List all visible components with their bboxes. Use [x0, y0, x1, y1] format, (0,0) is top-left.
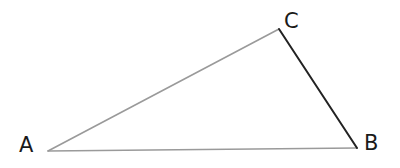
- side-ac: [48, 29, 279, 151]
- vertex-label-c: C: [284, 9, 299, 33]
- vertex-label-a: A: [19, 133, 34, 157]
- side-cb: [279, 29, 357, 148]
- side-ab: [48, 148, 357, 151]
- vertex-label-b: B: [364, 131, 378, 155]
- triangle-diagram: A B C: [0, 0, 400, 168]
